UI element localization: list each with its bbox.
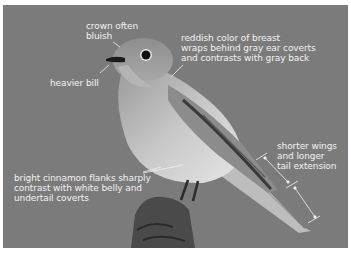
bird-photo: crown often bluish heavier bill reddish … xyxy=(3,5,348,248)
annotation-bill: heavier bill xyxy=(50,78,99,88)
annotation-breast: reddish color of breast wraps behind gra… xyxy=(181,33,316,63)
annotation-wings: shorter wings and longer tail extension xyxy=(277,141,337,171)
bird-bill xyxy=(106,57,125,63)
annotation-flanks: bright cinnamon flanks sharply contrast … xyxy=(14,173,151,203)
annotation-crown: crown often bluish xyxy=(86,21,138,41)
stump xyxy=(131,197,195,248)
